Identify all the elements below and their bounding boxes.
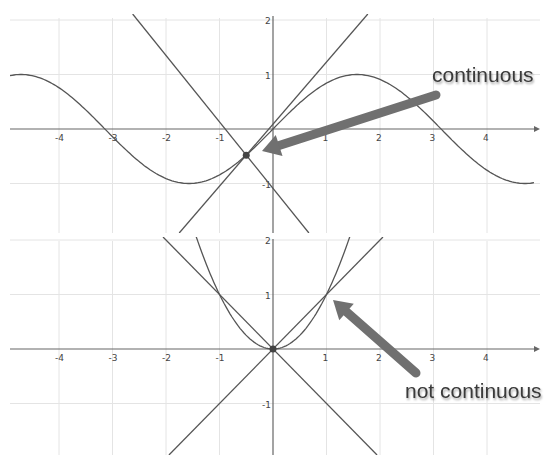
x-tick-label: -2 <box>162 353 171 363</box>
x-tick-label: -4 <box>55 353 64 363</box>
x-tick-label: 2 <box>376 133 382 143</box>
continuous-label: continuous <box>432 63 534 86</box>
point-marker <box>270 346 277 353</box>
x-tick-label: 1 <box>323 353 329 363</box>
x-tick-label: -1 <box>216 353 225 363</box>
x-axis-arrow-icon <box>534 346 540 352</box>
x-tick-label: -1 <box>216 133 225 143</box>
x-tick-label: 4 <box>483 353 489 363</box>
line-series <box>169 237 383 455</box>
y-tick-label: -1 <box>262 400 271 410</box>
x-tick-label: -3 <box>109 353 118 363</box>
x-tick-label: 3 <box>430 353 436 363</box>
point-marker <box>243 152 250 159</box>
continuous-arrow <box>279 95 436 145</box>
function-curve <box>10 0 534 349</box>
y-tick-label: 1 <box>265 71 271 81</box>
line-series <box>163 237 377 455</box>
x-tick-label: -4 <box>55 133 64 143</box>
not-continuous-arrow <box>347 312 416 373</box>
y-tick-label: 2 <box>265 16 271 26</box>
x-tick-label: 4 <box>483 133 489 143</box>
y-tick-label: 2 <box>265 236 271 246</box>
top-graph: -4-3-2-1123421-1 <box>10 14 540 233</box>
y-tick-label: 1 <box>265 291 271 301</box>
x-tick-label: 3 <box>430 133 436 143</box>
x-axis-arrow-icon <box>534 126 540 132</box>
line-series <box>133 14 309 233</box>
x-tick-label: 2 <box>376 353 382 363</box>
not-continuous-label: not continuous <box>405 379 542 402</box>
annotations: continuous not continuous <box>262 63 542 402</box>
x-tick-label: -2 <box>162 133 171 143</box>
figure: -4-3-2-1123421-1 -4-3-2-1123421-1 contin… <box>0 0 556 470</box>
